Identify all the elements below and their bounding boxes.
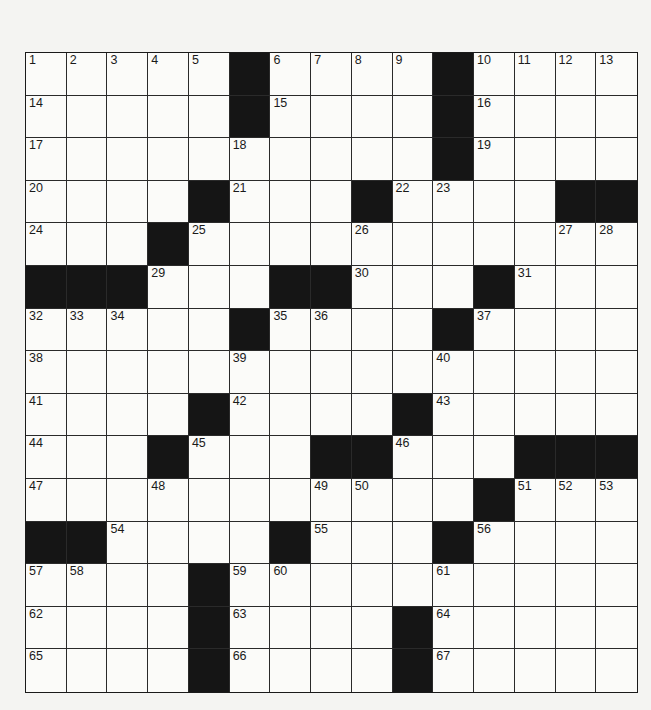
grid-cell[interactable] bbox=[352, 607, 393, 650]
grid-cell[interactable] bbox=[556, 394, 597, 437]
grid-cell[interactable] bbox=[230, 436, 271, 479]
grid-cell[interactable] bbox=[270, 436, 311, 479]
grid-cell[interactable] bbox=[311, 564, 352, 607]
grid-cell[interactable] bbox=[270, 649, 311, 692]
grid-cell[interactable] bbox=[515, 96, 556, 139]
grid-cell[interactable]: 10 bbox=[474, 53, 515, 96]
grid-cell[interactable] bbox=[189, 96, 230, 139]
grid-cell[interactable] bbox=[311, 607, 352, 650]
grid-cell[interactable] bbox=[596, 394, 637, 437]
grid-cell[interactable]: 57 bbox=[26, 564, 67, 607]
grid-cell[interactable] bbox=[270, 351, 311, 394]
grid-cell[interactable] bbox=[67, 138, 108, 181]
grid-cell[interactable] bbox=[352, 649, 393, 692]
grid-cell[interactable] bbox=[189, 266, 230, 309]
grid-cell[interactable] bbox=[148, 309, 189, 352]
grid-cell[interactable] bbox=[67, 223, 108, 266]
grid-cell[interactable]: 24 bbox=[26, 223, 67, 266]
grid-cell[interactable]: 65 bbox=[26, 649, 67, 692]
grid-cell[interactable] bbox=[270, 607, 311, 650]
grid-cell[interactable] bbox=[311, 223, 352, 266]
grid-cell[interactable] bbox=[107, 607, 148, 650]
grid-cell[interactable] bbox=[515, 564, 556, 607]
grid-cell[interactable]: 36 bbox=[311, 309, 352, 352]
grid-cell[interactable] bbox=[352, 394, 393, 437]
grid-cell[interactable] bbox=[67, 607, 108, 650]
grid-cell[interactable] bbox=[230, 266, 271, 309]
grid-cell[interactable] bbox=[107, 223, 148, 266]
grid-cell[interactable] bbox=[556, 96, 597, 139]
grid-cell[interactable]: 6 bbox=[270, 53, 311, 96]
grid-cell[interactable]: 15 bbox=[270, 96, 311, 139]
grid-cell[interactable] bbox=[189, 309, 230, 352]
grid-cell[interactable] bbox=[67, 394, 108, 437]
grid-cell[interactable] bbox=[148, 522, 189, 565]
grid-cell[interactable] bbox=[311, 181, 352, 224]
grid-cell[interactable] bbox=[107, 394, 148, 437]
grid-cell[interactable]: 44 bbox=[26, 436, 67, 479]
grid-cell[interactable] bbox=[352, 96, 393, 139]
grid-cell[interactable] bbox=[433, 436, 474, 479]
grid-cell[interactable] bbox=[596, 309, 637, 352]
grid-cell[interactable]: 42 bbox=[230, 394, 271, 437]
grid-cell[interactable]: 38 bbox=[26, 351, 67, 394]
grid-cell[interactable]: 62 bbox=[26, 607, 67, 650]
grid-cell[interactable] bbox=[352, 522, 393, 565]
grid-cell[interactable]: 4 bbox=[148, 53, 189, 96]
grid-cell[interactable] bbox=[596, 564, 637, 607]
grid-cell[interactable] bbox=[393, 96, 434, 139]
grid-cell[interactable] bbox=[393, 138, 434, 181]
grid-cell[interactable] bbox=[556, 649, 597, 692]
grid-cell[interactable]: 35 bbox=[270, 309, 311, 352]
grid-cell[interactable] bbox=[515, 649, 556, 692]
grid-cell[interactable] bbox=[596, 138, 637, 181]
grid-cell[interactable] bbox=[433, 266, 474, 309]
grid-cell[interactable] bbox=[270, 394, 311, 437]
grid-cell[interactable]: 33 bbox=[67, 309, 108, 352]
grid-cell[interactable]: 27 bbox=[556, 223, 597, 266]
grid-cell[interactable] bbox=[393, 223, 434, 266]
grid-cell[interactable] bbox=[515, 181, 556, 224]
grid-cell[interactable]: 46 bbox=[393, 436, 434, 479]
grid-cell[interactable] bbox=[148, 607, 189, 650]
grid-cell[interactable] bbox=[474, 607, 515, 650]
grid-cell[interactable]: 17 bbox=[26, 138, 67, 181]
grid-cell[interactable] bbox=[474, 181, 515, 224]
grid-cell[interactable]: 9 bbox=[393, 53, 434, 96]
grid-cell[interactable]: 13 bbox=[596, 53, 637, 96]
grid-cell[interactable] bbox=[311, 96, 352, 139]
grid-cell[interactable] bbox=[352, 351, 393, 394]
grid-cell[interactable]: 14 bbox=[26, 96, 67, 139]
grid-cell[interactable] bbox=[556, 522, 597, 565]
grid-cell[interactable]: 37 bbox=[474, 309, 515, 352]
grid-cell[interactable] bbox=[107, 96, 148, 139]
grid-cell[interactable]: 52 bbox=[556, 479, 597, 522]
grid-cell[interactable] bbox=[230, 223, 271, 266]
grid-cell[interactable] bbox=[596, 649, 637, 692]
grid-cell[interactable]: 60 bbox=[270, 564, 311, 607]
grid-cell[interactable] bbox=[189, 479, 230, 522]
grid-cell[interactable] bbox=[311, 351, 352, 394]
grid-cell[interactable] bbox=[67, 181, 108, 224]
grid-cell[interactable] bbox=[393, 522, 434, 565]
grid-cell[interactable] bbox=[556, 351, 597, 394]
grid-cell[interactable]: 32 bbox=[26, 309, 67, 352]
grid-cell[interactable]: 7 bbox=[311, 53, 352, 96]
grid-cell[interactable] bbox=[352, 309, 393, 352]
grid-cell[interactable] bbox=[189, 351, 230, 394]
grid-cell[interactable] bbox=[393, 564, 434, 607]
grid-cell[interactable] bbox=[148, 564, 189, 607]
grid-cell[interactable] bbox=[67, 436, 108, 479]
grid-cell[interactable]: 5 bbox=[189, 53, 230, 96]
grid-cell[interactable] bbox=[515, 351, 556, 394]
grid-cell[interactable] bbox=[67, 96, 108, 139]
grid-cell[interactable]: 63 bbox=[230, 607, 271, 650]
grid-cell[interactable] bbox=[148, 181, 189, 224]
grid-cell[interactable] bbox=[270, 138, 311, 181]
grid-cell[interactable] bbox=[596, 351, 637, 394]
grid-cell[interactable] bbox=[67, 479, 108, 522]
grid-cell[interactable] bbox=[393, 479, 434, 522]
grid-cell[interactable]: 8 bbox=[352, 53, 393, 96]
grid-cell[interactable] bbox=[515, 607, 556, 650]
grid-cell[interactable] bbox=[474, 436, 515, 479]
